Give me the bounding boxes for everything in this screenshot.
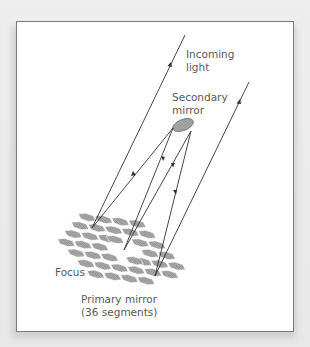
label-primary-mirror: Primary mirror (36 segments)	[81, 293, 157, 319]
arrow-icon	[161, 156, 165, 161]
label-line: mirror	[172, 104, 228, 117]
label-secondary-mirror: Secondary mirror	[172, 91, 228, 117]
secondary-mirror	[171, 116, 196, 134]
focus-ray-2	[124, 131, 191, 250]
label-focus: Focus	[55, 266, 85, 279]
label-line: Secondary	[172, 91, 228, 104]
label-line: (36 segments)	[81, 306, 157, 319]
label-line: Focus	[55, 266, 85, 278]
label-line: Primary mirror	[81, 293, 157, 306]
label-line: light	[186, 61, 234, 74]
label-line: Incoming	[186, 48, 234, 61]
label-incoming-light: Incoming light	[186, 48, 234, 74]
